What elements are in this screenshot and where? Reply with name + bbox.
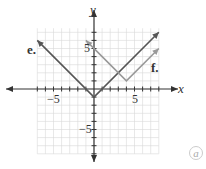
y-tick-5: 5 xyxy=(84,41,90,56)
series-f-label: f. xyxy=(151,60,159,76)
y-axis-label: y xyxy=(90,2,96,18)
graph-canvas xyxy=(0,0,206,169)
series-e-label: e. xyxy=(27,42,36,58)
x-tick-neg5: −5 xyxy=(47,92,60,107)
y-tick-neg5: −5 xyxy=(79,122,92,137)
x-tick-5: 5 xyxy=(132,92,138,107)
axes xyxy=(6,10,178,162)
x-axis-label: x xyxy=(178,81,184,97)
corner-mark: a xyxy=(189,146,203,160)
